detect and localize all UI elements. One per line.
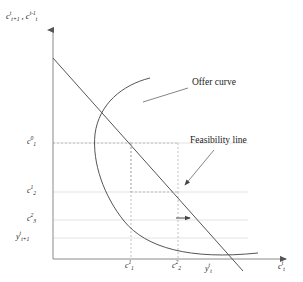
feasibility-line-annotation: Feasibility line — [190, 136, 247, 146]
y-tick-c1-upper: c01 — [27, 138, 36, 146]
y-tick-y-endowment: ytt+1 — [16, 233, 29, 241]
x-tick-yt: ytt — [205, 265, 212, 273]
cobweb-construction — [53, 143, 178, 259]
gridlines — [53, 143, 248, 238]
axes — [53, 30, 286, 259]
offer-curve-path — [95, 78, 258, 255]
y-tick-c2-low: c23 — [27, 215, 36, 223]
offer-curve-annotation: Offer curve — [192, 78, 236, 88]
y-axis-label: ctt+1 , ct-1t — [6, 12, 37, 21]
cobweb-vertical-steps — [131, 143, 178, 192]
feasibility-leader — [185, 150, 214, 185]
x-tick-c2: c22 — [172, 262, 181, 270]
diagram-svg — [0, 0, 303, 282]
x-axis-label: ctt — [278, 262, 285, 271]
x-tick-c1: c11 — [125, 262, 134, 270]
figure-canvas: ctt+1 , ct-1t ctt c01 c12 c23 ytt+1 c11 … — [0, 0, 303, 282]
feasibility-line-path — [53, 58, 243, 271]
y-tick-c1-mid: c12 — [27, 187, 36, 195]
offer-curve-leader — [143, 88, 188, 102]
